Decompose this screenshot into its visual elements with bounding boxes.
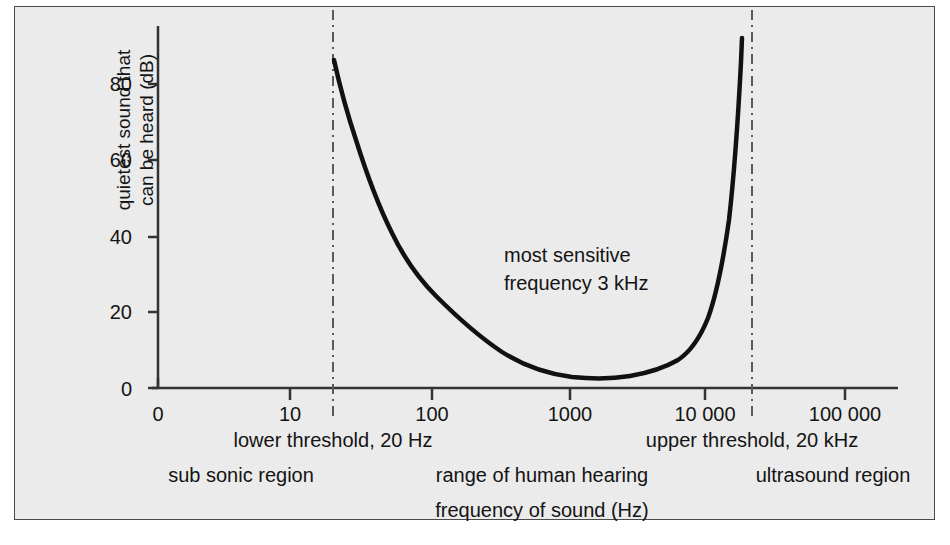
most-sensitive-annotation-line-1: most sensitive [504,242,631,268]
x-axis-title: frequency of sound (Hz) [435,498,648,522]
x-tick-label: 100 [415,403,448,425]
y-axis-title-line-1: quietest sound that [112,0,135,280]
y-axis-title: quietest sound that can be heard (dB) [112,0,172,280]
sub-sonic-region-caption: sub sonic region [168,463,314,487]
ultrasound-region-caption: ultrasound region [756,463,911,487]
x-tick-label: 10 000 [674,403,735,425]
human-hearing-range-caption: range of human hearing [436,463,648,487]
x-tick-label: 0 [152,403,163,425]
y-tick-label: 20 [96,302,132,322]
x-tick-label: 100 000 [809,403,881,425]
x-tick-label: 1000 [548,403,593,425]
lower-threshold-caption: lower threshold, 20 Hz [234,428,433,452]
most-sensitive-annotation-line-2: frequency 3 kHz [504,270,649,296]
figure-container: 80 60 40 20 0 quietest sound that can be… [0,0,950,545]
x-tick-label: 10 [279,403,301,425]
threshold-of-hearing-curve [334,38,742,378]
y-tick-label: 0 [96,379,132,399]
y-axis-title-line-2: can be heard (dB) [135,0,158,280]
upper-threshold-caption: upper threshold, 20 kHz [646,428,858,452]
